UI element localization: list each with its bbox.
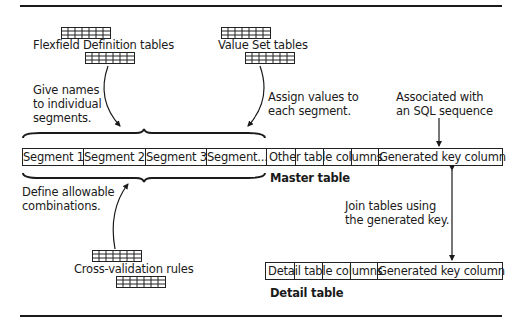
top-brace bbox=[23, 129, 265, 138]
cross-validation-arrow bbox=[113, 184, 128, 249]
bottom-brace bbox=[23, 173, 265, 182]
connectors bbox=[0, 0, 525, 323]
flexfield-arrow bbox=[104, 66, 120, 126]
value-set-arrow bbox=[248, 66, 264, 126]
